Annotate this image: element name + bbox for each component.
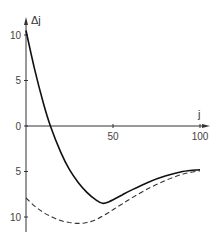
y-ticks: 1050510	[10, 30, 28, 223]
y-axis-arrow-icon	[24, 17, 28, 25]
y-tick-label: 0	[15, 121, 21, 132]
y-axis-title: Δj	[31, 14, 41, 26]
x-axis-arrow-icon	[202, 124, 210, 128]
y-tick-label: 10	[10, 212, 22, 223]
dashed-series-line	[26, 171, 200, 224]
y-tick-label: 10	[10, 30, 22, 41]
x-tick-label: 50	[107, 131, 119, 142]
x-tick-label: 100	[192, 131, 209, 142]
y-axis: Δj 1050510	[10, 14, 41, 232]
x-ticks: 50100	[107, 124, 208, 142]
line-chart: Δj 1050510 j 50100	[0, 0, 223, 235]
y-tick-label: 5	[15, 75, 21, 86]
x-axis-title: j	[197, 108, 200, 120]
solid-series-line	[26, 31, 200, 204]
y-tick-label: 5	[15, 166, 21, 177]
